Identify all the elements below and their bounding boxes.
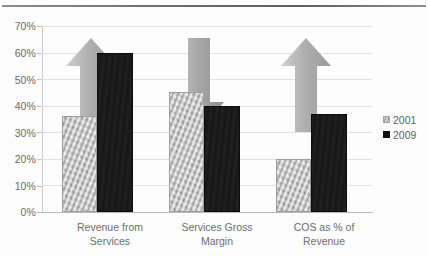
y-axis-label-30: 30% [2,127,36,139]
y-axis-label-40: 40% [2,100,36,112]
legend-item-2001[interactable]: 2001 [383,112,428,127]
top-divider-rule [2,5,426,7]
y-axis-label-20: 20% [2,153,36,165]
plot-area [42,26,372,212]
y-axis-label-50: 50% [2,74,36,86]
y-axis-label-10: 10% [2,180,36,192]
chart-legend: 2001 2009 [383,112,428,142]
legend-item-2009[interactable]: 2009 [383,127,428,142]
y-axis-label-0: 0% [2,206,36,218]
x-axis-line [42,212,373,213]
x-axis-category-cos-as-pct-of-revenue: COS as % of Revenue [266,220,382,248]
gridline-60 [42,53,372,54]
gridline-50 [42,79,372,80]
y-axis-labels: 70% 60% 50% 40% 30% 20% 10% 0% [0,0,36,256]
category-label-line1: Services Gross [159,220,275,234]
legend-label-2009: 2009 [393,129,416,141]
bar-2009-cos-as-pct-of-revenue[interactable] [311,114,347,212]
legend-swatch-icon-2009 [383,131,390,138]
chart-screenshot: 70% 60% 50% 40% 30% 20% 10% 0% [0,0,428,256]
y-axis-label-70: 70% [2,20,36,32]
bar-2009-revenue-from-services[interactable] [97,53,133,212]
bar-2001-cos-as-pct-of-revenue[interactable] [276,159,311,212]
category-label-line2: Revenue [266,234,382,248]
gridline-70 [42,26,372,27]
category-label-line1: Revenue from [52,220,168,234]
category-label-line2: Services [52,234,168,248]
legend-label-2001: 2001 [393,114,416,126]
bar-2009-services-gross-margin[interactable] [204,106,240,212]
category-label-line1: COS as % of [266,220,382,234]
x-axis-category-services-gross-margin: Services Gross Margin [159,220,275,248]
x-axis-category-revenue-from-services: Revenue from Services [52,220,168,248]
bar-2001-services-gross-margin[interactable] [169,92,204,212]
category-label-line2: Margin [159,234,275,248]
y-axis-label-60: 60% [2,47,36,59]
legend-swatch-icon-2001 [383,116,390,123]
bar-2001-revenue-from-services[interactable] [62,116,97,212]
